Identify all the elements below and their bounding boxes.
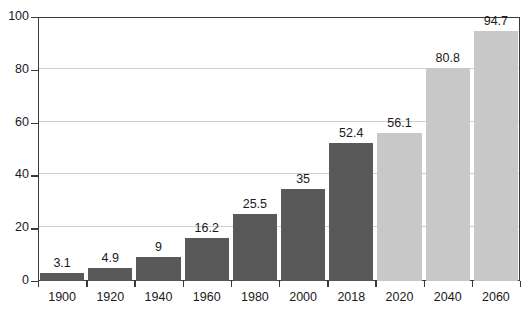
x-axis-label: 1960 (183, 290, 231, 304)
x-axis-tick-mark (424, 281, 425, 287)
bar[interactable] (185, 238, 229, 281)
bar[interactable] (377, 133, 421, 281)
x-axis-label: 1980 (231, 290, 279, 304)
bar[interactable] (474, 31, 518, 281)
x-axis-tick-mark (472, 281, 473, 287)
bar-group: 94.7 (472, 17, 520, 281)
bar-chart: 020406080100 3.14.9916.225.53552.456.180… (0, 0, 527, 311)
x-axis-label: 2060 (472, 290, 520, 304)
y-axis-tick-mark (31, 175, 38, 176)
bar-group: 4.9 (86, 17, 134, 281)
bar-group: 16.2 (183, 17, 231, 281)
bar-value-label: 3.1 (38, 256, 86, 270)
y-axis-tick-label: 80 (15, 62, 29, 76)
bar-value-label: 25.5 (231, 197, 279, 211)
y-axis-tick-mark (31, 228, 38, 229)
bar-value-label: 16.2 (183, 221, 231, 235)
bar-value-label: 80.8 (424, 51, 472, 65)
y-axis-tick-mark (31, 281, 38, 282)
x-axis-label: 2000 (279, 290, 327, 304)
bar-value-label: 4.9 (86, 251, 134, 265)
bar-group: 35 (279, 17, 327, 281)
bar-group: 9 (134, 17, 182, 281)
y-axis: 020406080100 (0, 17, 38, 281)
x-axis-tick-mark (231, 281, 232, 287)
x-axis-label: 2018 (327, 290, 375, 304)
bar-value-label: 94.7 (472, 14, 520, 28)
y-axis-tick-label: 100 (8, 9, 29, 23)
x-axis-tick-mark (183, 281, 184, 287)
y-axis-tick-label: 0 (22, 273, 29, 287)
bar-group: 3.1 (38, 17, 86, 281)
x-axis-tick-mark (134, 281, 135, 287)
bars-layer: 3.14.9916.225.53552.456.180.894.7 (38, 17, 520, 281)
bar-value-label: 52.4 (327, 126, 375, 140)
chart-title (38, 0, 488, 3)
x-axis-tick-mark (86, 281, 87, 287)
x-axis-label: 1940 (134, 290, 182, 304)
x-axis-tick-mark (375, 281, 376, 287)
bar[interactable] (233, 214, 277, 281)
y-axis-tick-label: 40 (15, 167, 29, 181)
y-axis-tick-mark (31, 70, 38, 71)
y-axis-tick-label: 60 (15, 115, 29, 129)
x-axis-label: 2020 (375, 290, 423, 304)
y-axis-tick-mark (31, 123, 38, 124)
x-axis-label: 1920 (86, 290, 134, 304)
x-axis-tick-mark (520, 281, 521, 287)
y-axis-tick-label: 20 (15, 220, 29, 234)
bar-group: 56.1 (375, 17, 423, 281)
bar-value-label: 56.1 (375, 116, 423, 130)
x-axis-label: 2040 (424, 290, 472, 304)
bar[interactable] (281, 189, 325, 281)
x-axis-tick-mark (38, 281, 39, 287)
bar[interactable] (329, 143, 373, 281)
bar-value-label: 9 (134, 240, 182, 254)
bar[interactable] (136, 257, 180, 281)
x-axis-tick-mark (327, 281, 328, 287)
x-axis: 1900192019401960198020002018202020402060 (38, 281, 520, 311)
y-axis-tick-mark (31, 17, 38, 18)
bar-value-label: 35 (279, 172, 327, 186)
x-axis-tick-mark (279, 281, 280, 287)
bar-group: 25.5 (231, 17, 279, 281)
bar[interactable] (426, 68, 470, 281)
bar-group: 80.8 (424, 17, 472, 281)
x-axis-label: 1900 (38, 290, 86, 304)
bar[interactable] (88, 268, 132, 281)
bar[interactable] (40, 273, 84, 281)
bar-group: 52.4 (327, 17, 375, 281)
